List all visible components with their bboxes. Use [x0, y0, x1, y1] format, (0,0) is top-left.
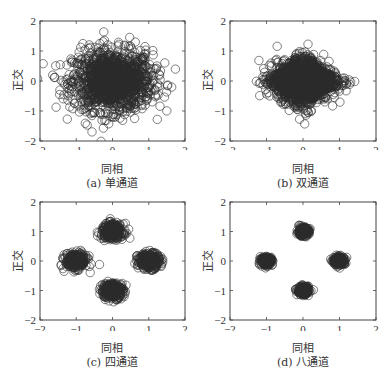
y-axis-label-d: 正交 — [199, 250, 215, 272]
y-tick-label: −2 — [24, 314, 36, 326]
y-tick-label: −2 — [214, 314, 226, 326]
y-tick-label: 0 — [31, 75, 37, 87]
y-tick-label: 0 — [221, 75, 227, 87]
x-tick-label: 0 — [110, 323, 116, 331]
y-tick-label: 2 — [221, 196, 227, 208]
x-tick-label: 2 — [373, 144, 379, 150]
chart-panel-c: −2−1012−2−1012 正交 同相 (c) 四通道 — [0, 181, 196, 378]
y-tick-label: 2 — [31, 15, 37, 27]
y-axis-label-b: 正交 — [199, 69, 215, 91]
y-tick-label: 2 — [31, 196, 37, 208]
x-tick-label: 1 — [146, 144, 152, 150]
scatter-plot-a: −2−1012−2−1012 — [0, 0, 196, 150]
scatter-plot-c: −2−1012−2−1012 — [0, 181, 196, 331]
y-tick-label: 1 — [221, 226, 227, 238]
x-tick-label: 1 — [337, 144, 343, 150]
x-tick-label: 0 — [300, 144, 306, 150]
y-tick-label: −2 — [24, 135, 36, 147]
y-tick-label: −1 — [24, 105, 36, 117]
y-tick-label: −2 — [214, 135, 226, 147]
y-tick-label: 0 — [221, 255, 227, 267]
x-tick-label: 2 — [182, 323, 188, 331]
x-tick-label: −1 — [261, 323, 273, 331]
x-tick-label: 0 — [300, 323, 306, 331]
scatter-points — [33, 28, 179, 146]
scatter-points — [252, 40, 359, 128]
y-tick-label: 1 — [31, 226, 37, 238]
y-tick-label: 2 — [221, 15, 227, 27]
x-tick-label: 2 — [182, 144, 188, 150]
chart-panel-d: −2−1012−2−1012 正交 同相 (d) 八通道 — [190, 181, 392, 378]
scatter-plot-d: −2−1012−2−1012 — [190, 181, 392, 331]
x-tick-label: −1 — [70, 323, 82, 331]
y-tick-label: −1 — [214, 105, 226, 117]
x-tick-label: −1 — [70, 144, 82, 150]
scatter-points — [255, 221, 351, 300]
caption-d: (d) 八通道 — [277, 353, 329, 369]
x-tick-label: 1 — [146, 323, 152, 331]
y-tick-label: 0 — [31, 255, 37, 267]
axes-frame — [230, 202, 376, 320]
chart-panel-a: −2−1012−2−1012 正交 同相 (a) 单通道 — [0, 0, 196, 189]
x-tick-label: 1 — [337, 323, 343, 331]
x-tick-label: −1 — [261, 144, 273, 150]
x-tick-label: 0 — [110, 144, 116, 150]
x-tick-label: 2 — [373, 323, 379, 331]
scatter-plot-b: −2−1012−2−1012 — [190, 0, 392, 150]
scatter-points — [57, 215, 167, 306]
y-tick-label: 1 — [31, 45, 37, 57]
y-tick-label: −1 — [24, 285, 36, 297]
y-tick-label: 1 — [221, 45, 227, 57]
y-axis-label-a: 正交 — [9, 69, 25, 91]
chart-panel-b: −2−1012−2−1012 正交 同相 (b) 双通道 — [190, 0, 392, 189]
y-tick-label: −1 — [214, 285, 226, 297]
y-axis-label-c: 正交 — [9, 250, 25, 272]
caption-c: (c) 四通道 — [86, 353, 137, 369]
